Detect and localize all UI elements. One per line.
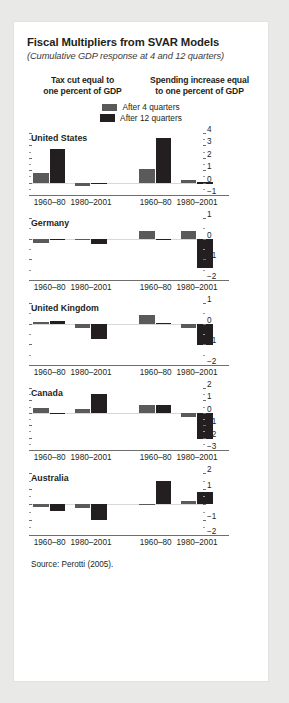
y-tick-mark	[203, 388, 206, 389]
y-axis-tick: 4	[203, 133, 229, 134]
bar-group	[139, 388, 173, 450]
y-tick-label: −2	[207, 272, 216, 281]
panel-label: Canada	[31, 388, 63, 398]
bar-after-12	[156, 239, 172, 241]
y-tick-label: 1	[207, 210, 212, 219]
legend: After 4 quarters After 12 quarters	[27, 103, 255, 124]
y-axis-minor-tick	[203, 512, 229, 513]
panel-label: Germany	[31, 218, 69, 228]
x-tick-label: 1980–2001	[71, 453, 112, 462]
y-minor-tick-mark	[203, 313, 205, 314]
y-axis-minor-tick	[203, 334, 229, 335]
x-tick-label: 1960–80	[34, 538, 66, 547]
legend-label-after-12: After 12 quarters	[120, 114, 182, 123]
y-tick-mark	[203, 344, 206, 345]
bar-group	[139, 218, 173, 280]
panel-list: United States43210−11960–801980–20011960…	[27, 133, 255, 549]
y-axis-tick: 1	[203, 489, 229, 490]
y-tick-mark	[203, 133, 206, 134]
y-tick-mark	[203, 145, 206, 146]
y-minor-tick-mark	[203, 496, 205, 497]
y-tick-mark	[203, 438, 206, 439]
y-minor-tick-mark	[203, 334, 205, 335]
legend-swatch-icon-after-4	[102, 104, 117, 112]
y-tick-mark	[203, 259, 206, 260]
y-minor-tick-mark	[203, 481, 205, 482]
y-axis-tick: −2	[203, 438, 229, 439]
x-tick-label: 1960–80	[34, 453, 66, 462]
bar-group	[74, 473, 108, 535]
bar-group	[139, 473, 173, 535]
bar-after-4	[139, 315, 155, 323]
y-axis-minor-tick	[203, 444, 229, 445]
panel-label: Australia	[31, 473, 69, 483]
panel-united-kingdom: United Kingdom10−1−21960–801980–20011960…	[27, 303, 255, 379]
y-axis-tick: 2	[203, 388, 229, 389]
y-tick-label: −2	[207, 357, 216, 366]
y-tick-mark	[203, 400, 206, 401]
column-header-spending-line1: Spending increase equal	[144, 75, 255, 86]
bar-after-4	[139, 231, 155, 238]
x-tick-label: 1960–80	[140, 368, 172, 377]
y-tick-mark	[203, 239, 206, 240]
y-tick-mark	[203, 520, 206, 521]
y-axis-minor-tick	[203, 431, 229, 432]
bar-after-4	[33, 408, 49, 412]
bar-after-12	[91, 239, 107, 245]
y-minor-tick-mark	[203, 139, 205, 140]
bar-after-4	[139, 504, 155, 505]
bar-after-4	[75, 324, 91, 328]
bar-after-4	[181, 180, 197, 183]
bar-after-12	[91, 504, 107, 520]
bar-after-12	[50, 149, 66, 182]
column-headers: Tax cut equal to one percent of GDP Spen…	[27, 75, 255, 96]
bar-after-4	[75, 239, 91, 240]
bar-after-4	[33, 504, 49, 507]
y-axis-minor-tick	[203, 164, 229, 165]
bar-after-12	[50, 321, 66, 323]
x-axis-labels: 1960–801980–20011960–801980–2001	[29, 451, 229, 464]
x-tick-label: 1980–2001	[177, 283, 218, 292]
bar-group	[139, 303, 173, 365]
x-tick-label: 1980–2001	[71, 538, 112, 547]
y-tick-mark	[203, 489, 206, 490]
bar-after-4	[181, 231, 197, 238]
y-axis: 210−1−2	[203, 473, 229, 535]
y-axis: 43210−1	[203, 133, 229, 195]
column-header-spending-line2: to one percent of GDP	[144, 86, 255, 97]
y-axis-tick: 2	[203, 473, 229, 474]
bar-after-12	[91, 183, 107, 184]
y-axis-minor-tick	[203, 419, 229, 420]
y-minor-tick-mark	[203, 176, 205, 177]
y-tick-mark	[203, 473, 206, 474]
y-minor-tick-mark	[203, 444, 205, 445]
bar-after-4	[75, 409, 91, 413]
bar-group	[74, 218, 108, 280]
column-header-tax-cut-line1: Tax cut equal to	[27, 75, 138, 86]
x-tick-label: 1980–2001	[71, 198, 112, 207]
x-axis-labels: 1960–801980–20011960–801980–2001	[29, 196, 229, 209]
y-axis-tick: −1	[203, 259, 229, 260]
y-axis-tick: 2	[203, 158, 229, 159]
y-minor-tick-mark	[203, 189, 205, 190]
y-axis-tick: −1	[203, 520, 229, 521]
y-tick-label: 0	[207, 315, 212, 324]
y-axis-minor-tick	[203, 139, 229, 140]
y-minor-tick-mark	[203, 527, 205, 528]
source-note: Source: Perotti (2005).	[27, 560, 255, 569]
y-tick-label: 4	[207, 125, 212, 134]
y-tick-label: 1	[207, 295, 212, 304]
bar-after-4	[139, 169, 155, 183]
x-tick-label: 1960–80	[140, 283, 172, 292]
y-axis-tick: 0	[203, 183, 229, 184]
panel-germany: Germany10−1−21960–801980–20011960–801980…	[27, 218, 255, 294]
y-minor-tick-mark	[203, 512, 205, 513]
y-minor-tick-mark	[203, 407, 205, 408]
bar-after-12	[156, 138, 172, 183]
y-minor-tick-mark	[203, 419, 205, 420]
panel-canada: Canada210−1−2−31960–801980–20011960–8019…	[27, 388, 255, 464]
x-tick-label: 1980–2001	[177, 538, 218, 547]
bar-after-4	[75, 183, 91, 187]
x-axis-labels: 1960–801980–20011960–801980–2001	[29, 366, 229, 379]
bar-group	[74, 388, 108, 450]
